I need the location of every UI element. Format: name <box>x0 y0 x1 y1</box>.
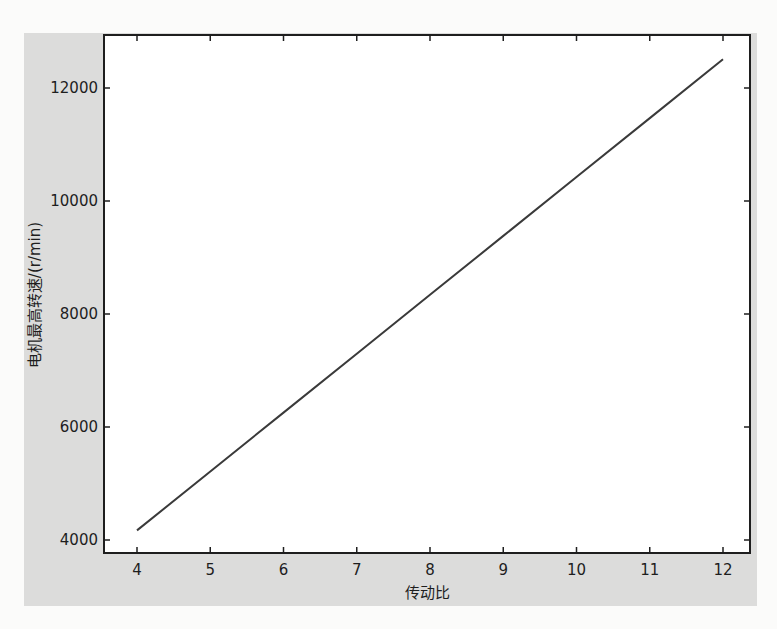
plot-area <box>104 35 750 553</box>
x-tick-label: 10 <box>567 561 586 579</box>
x-tick-label: 9 <box>498 561 508 579</box>
y-axis-title: 电机最高转速/(r/min) <box>26 222 44 368</box>
y-tick-label: 4000 <box>60 531 98 549</box>
x-axis-title: 传动比 <box>405 584 450 602</box>
y-tick-label: 8000 <box>60 305 98 323</box>
x-tick-label: 6 <box>279 561 289 579</box>
x-tick-label: 11 <box>640 561 659 579</box>
x-tick-label: 5 <box>205 561 215 579</box>
x-tick-label: 4 <box>132 561 142 579</box>
x-tick-label: 12 <box>713 561 732 579</box>
x-tick-label: 8 <box>425 561 435 579</box>
line-chart: 456789101112 4000600080001000012000 传动比 … <box>0 0 777 629</box>
y-tick-label: 12000 <box>50 79 98 97</box>
y-tick-label: 6000 <box>60 418 98 436</box>
x-tick-label: 7 <box>352 561 362 579</box>
y-tick-label: 10000 <box>50 192 98 210</box>
